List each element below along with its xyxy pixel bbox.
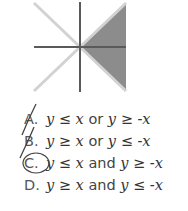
inequality-graph [0,0,188,100]
option-d[interactable]: D.y ≥ x and y ≤ -x [24,175,163,195]
option-b[interactable]: B.y ≥ x or y ≤ -x [24,131,150,151]
option-a[interactable]: A.y ≤ x or y ≥ -x [24,109,150,129]
option-c[interactable]: C.y ≤ x and y ≥ -x [24,153,163,173]
